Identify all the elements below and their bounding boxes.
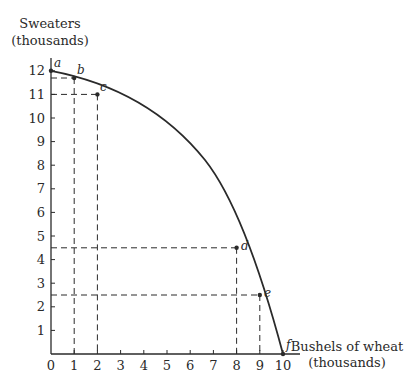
point-d — [234, 246, 238, 250]
y-tick-2: 2 — [37, 299, 45, 314]
point-label-b: b — [77, 63, 85, 77]
y-tick-3: 3 — [37, 276, 45, 291]
guide-lines — [51, 78, 260, 354]
y-tick-12: 12 — [28, 63, 45, 78]
y-tick-9: 9 — [37, 134, 45, 149]
x-axis-label-line1: Bushels of wheat — [291, 339, 404, 354]
x-tick-8: 8 — [232, 358, 240, 373]
point-label-e: e — [264, 286, 271, 300]
x-axis-label-line2: (thousands) — [308, 355, 386, 370]
x-tick-5: 5 — [163, 358, 171, 373]
curve-points — [49, 69, 285, 357]
y-tick-1: 1 — [37, 323, 45, 338]
point-label-c: c — [100, 80, 107, 94]
x-tick-1: 1 — [70, 358, 78, 373]
y-tick-5: 5 — [37, 229, 45, 244]
y-axis-label-line1: Sweaters — [19, 16, 80, 31]
x-tick-labels: 0 1 2 3 4 5 6 7 8 9 10 — [47, 358, 291, 373]
point-label-a: a — [54, 56, 61, 70]
x-tick-4: 4 — [140, 358, 148, 373]
x-tick-0: 0 — [47, 358, 55, 373]
axes — [51, 58, 300, 354]
x-tick-7: 7 — [209, 358, 217, 373]
point-b — [72, 76, 76, 80]
x-tick-9: 9 — [256, 358, 264, 373]
point-c — [95, 92, 99, 96]
y-tick-11: 11 — [28, 87, 45, 102]
point-e — [258, 293, 262, 297]
y-tick-7: 7 — [37, 181, 45, 196]
ppf-chart: Sweaters (thousands) Bushels of wheat (t… — [0, 0, 407, 392]
x-tick-2: 2 — [93, 358, 101, 373]
ppf-curve — [51, 71, 283, 354]
point-label-d: d — [241, 239, 249, 253]
point-f — [281, 352, 285, 356]
y-tick-6: 6 — [37, 205, 45, 220]
point-labels: a b c d e f — [54, 56, 293, 352]
x-tick-6: 6 — [186, 358, 194, 373]
point-a — [49, 69, 53, 73]
y-tick-10: 10 — [28, 111, 45, 126]
y-axis-label-line2: (thousands) — [11, 33, 89, 48]
y-tick-8: 8 — [37, 158, 45, 173]
x-tick-10: 10 — [275, 358, 292, 373]
y-tick-4: 4 — [37, 252, 45, 267]
x-tick-3: 3 — [116, 358, 124, 373]
y-tick-labels: 1 2 3 4 5 6 7 8 9 10 11 12 — [28, 63, 45, 338]
